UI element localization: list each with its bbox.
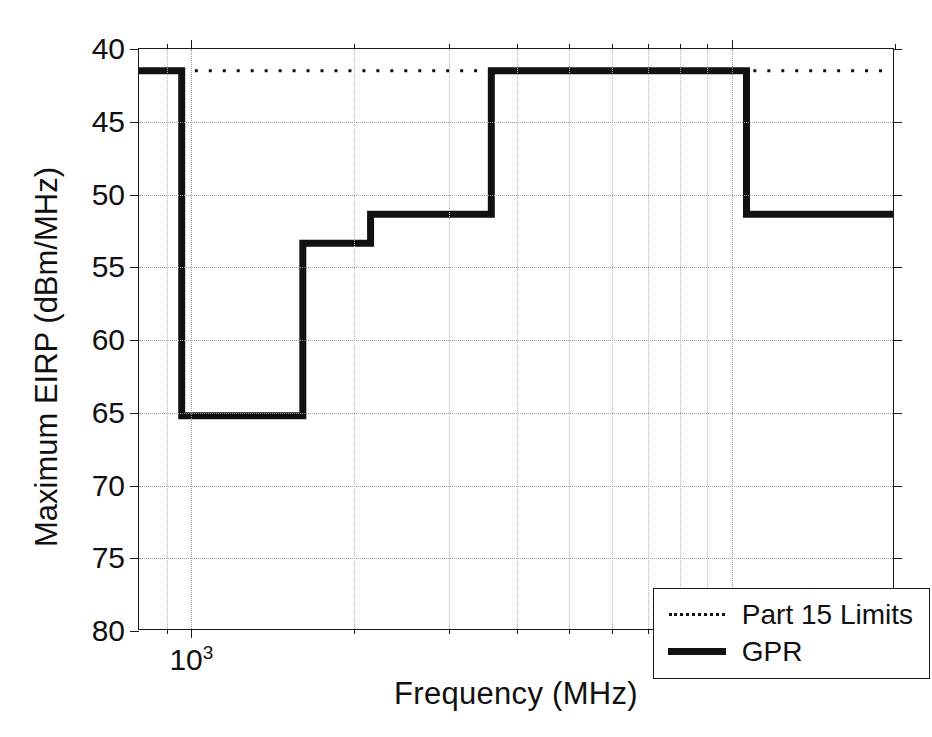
x-tick-mark-minor	[569, 44, 570, 49]
x-tick-label: 103	[169, 645, 213, 675]
x-tick-mark-minor	[354, 629, 355, 634]
y-tick-mark	[130, 340, 139, 341]
y-tick-mark	[130, 49, 139, 50]
y-tick-mark	[893, 267, 902, 268]
y-gridline	[139, 195, 893, 196]
y-tick-mark	[893, 558, 902, 559]
x-tick-mark-minor	[648, 44, 649, 49]
legend-label: Part 15 Limits	[742, 601, 913, 629]
y-tick-mark	[130, 413, 139, 414]
x-gridline-minor	[707, 49, 708, 629]
x-tick-mark-minor	[569, 629, 570, 634]
x-gridline-minor	[680, 49, 681, 629]
x-tick-mark	[191, 629, 192, 638]
y-tick-label: 65	[92, 398, 125, 428]
x-axis-title: Frequency (MHz)	[138, 676, 894, 712]
y-tick-label: 50	[92, 180, 125, 210]
y-axis-title: Maximum EIRP (dBm/MHz)	[29, 57, 65, 657]
y-tick-mark	[130, 195, 139, 196]
dotted-line-icon	[666, 613, 728, 616]
x-tick-mark	[732, 40, 733, 49]
y-tick-mark	[893, 413, 902, 414]
x-tick-mark-minor	[612, 44, 613, 49]
y-gridline	[139, 558, 893, 559]
y-tick-label: 60	[92, 325, 125, 355]
x-tick-mark-minor	[895, 44, 896, 49]
chart-figure: 404550556065707580103104 Frequency (MHz)…	[0, 0, 932, 737]
y-gridline	[139, 122, 893, 123]
y-tick-mark	[130, 122, 139, 123]
legend-item-part-15-limits: Part 15 Limits	[666, 596, 913, 633]
y-tick-mark	[893, 122, 902, 123]
x-tick-mark-minor	[167, 44, 168, 49]
x-gridline-minor	[167, 49, 168, 629]
y-tick-label: 45	[92, 107, 125, 137]
y-tick-mark	[130, 267, 139, 268]
legend-label: GPR	[742, 638, 803, 666]
x-gridline-minor	[517, 49, 518, 629]
y-gridline	[139, 413, 893, 414]
x-gridline	[191, 49, 192, 629]
x-gridline	[732, 49, 733, 629]
x-tick-mark-minor	[449, 629, 450, 634]
x-tick-mark-minor	[707, 44, 708, 49]
y-tick-mark	[893, 195, 902, 196]
y-tick-mark	[893, 49, 902, 50]
solid-line-icon	[666, 648, 728, 655]
x-tick-mark-minor	[648, 629, 649, 634]
x-tick-mark-minor	[517, 44, 518, 49]
x-gridline-minor	[449, 49, 450, 629]
chart-legend: Part 15 Limits GPR	[653, 588, 930, 679]
y-tick-mark	[893, 486, 902, 487]
y-gridline	[139, 267, 893, 268]
series-canvas	[139, 49, 893, 629]
x-tick-mark	[191, 40, 192, 49]
y-tick-mark	[130, 486, 139, 487]
x-gridline-minor	[354, 49, 355, 629]
y-tick-label: 40	[92, 34, 125, 64]
x-gridline-minor	[569, 49, 570, 629]
y-tick-label: 75	[92, 543, 125, 573]
legend-item-gpr: GPR	[666, 633, 913, 670]
y-gridline	[139, 340, 893, 341]
x-tick-mark-minor	[517, 629, 518, 634]
y-gridline	[139, 486, 893, 487]
y-tick-mark	[893, 340, 902, 341]
x-gridline-minor	[612, 49, 613, 629]
x-tick-mark-minor	[354, 44, 355, 49]
y-tick-label: 70	[92, 471, 125, 501]
x-tick-mark-minor	[167, 629, 168, 634]
plot-area: 404550556065707580103104	[138, 48, 894, 630]
x-tick-mark-minor	[680, 44, 681, 49]
y-tick-label: 80	[92, 616, 125, 646]
y-tick-mark	[130, 631, 139, 632]
x-tick-mark-minor	[612, 629, 613, 634]
y-tick-mark	[130, 558, 139, 559]
y-tick-label: 55	[92, 252, 125, 282]
x-tick-mark-minor	[449, 44, 450, 49]
x-gridline-minor	[648, 49, 649, 629]
